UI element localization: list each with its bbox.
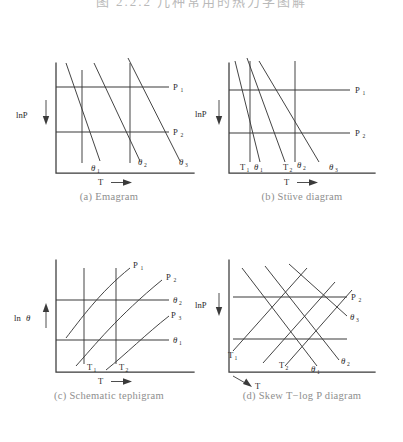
panel-c-label-P3: P3 xyxy=(171,310,182,321)
svg-text:T: T xyxy=(283,162,289,172)
svg-text:P: P xyxy=(166,272,171,282)
svg-text:T: T xyxy=(240,162,246,172)
panel-a-label-T: T xyxy=(98,177,104,187)
panel-d-label-lnP: lnP xyxy=(195,300,207,310)
svg-text:2: 2 xyxy=(303,165,306,171)
svg-text:T: T xyxy=(119,362,125,372)
panel-schematic-tephigram: lnθ T P1 P2 P3 θ2 θ1 T1 xyxy=(14,248,204,388)
panel-c-label-theta1: θ1 xyxy=(173,335,182,346)
svg-text:T: T xyxy=(98,177,104,187)
panel-d-caption: (d) Skew T−log P diagram xyxy=(207,390,397,401)
panel-b-label-T: T xyxy=(284,177,290,187)
panel-c-label-P2: P2 xyxy=(166,272,177,283)
svg-text:θ: θ xyxy=(311,364,316,374)
svg-text:θ: θ xyxy=(91,163,96,173)
svg-text:P: P xyxy=(173,82,178,92)
panel-d-x-axis-arrow xyxy=(233,376,252,387)
svg-text:T: T xyxy=(98,376,104,386)
panel-a-label-theta2: θ2 xyxy=(138,157,147,168)
svg-text:T: T xyxy=(228,350,234,360)
svg-text:θ: θ xyxy=(329,162,334,172)
panel-c-x-axis-arrow xyxy=(111,378,132,384)
svg-text:P: P xyxy=(171,310,176,320)
panel-a-adiabat-theta1 xyxy=(66,63,100,161)
thermodynamic-diagrams-figure: 图 2.2.2 几种常用的热力学图解 xyxy=(0,0,403,442)
panel-a-x-axis-arrow xyxy=(111,179,132,185)
svg-text:1: 1 xyxy=(247,167,250,173)
svg-text:lnP: lnP xyxy=(195,300,207,310)
svg-text:P: P xyxy=(351,292,356,302)
panel-emagram: lnP T P1 P2 θ1 θ2 θ3 (a) Emagram xyxy=(14,55,204,185)
panel-b-y-axis-arrow xyxy=(216,100,222,125)
svg-text:θ: θ xyxy=(173,335,178,345)
svg-text:P: P xyxy=(133,260,138,270)
panel-c-label-P1: P1 xyxy=(133,260,144,271)
panel-d-label-P2: P2 xyxy=(351,292,362,303)
panel-b-adiabat-theta1 xyxy=(235,61,260,162)
svg-text:P: P xyxy=(355,128,360,138)
clipped-figure-heading-text: 图 2.2.2 几种常用的热力学图解 xyxy=(0,0,403,10)
panel-c-isobar-P1 xyxy=(66,268,130,338)
panel-skew-t-log-p-diagram: lnP T P2 θ3 θ2 θ1 T1 T2 (d) Sk xyxy=(207,248,397,388)
panel-c-label-T1: T1 xyxy=(87,362,97,373)
svg-text:1: 1 xyxy=(97,168,100,174)
svg-text:lnP: lnP xyxy=(195,109,207,119)
panel-c-label-lntheta: lnθ xyxy=(14,313,31,323)
svg-text:θ: θ xyxy=(297,160,302,170)
panel-b-label-theta1: θ1 xyxy=(254,162,263,173)
panel-b-x-axis-arrow xyxy=(297,179,318,185)
svg-text:2: 2 xyxy=(126,367,129,373)
panel-a-label-theta1: θ1 xyxy=(91,163,100,174)
panel-d-y-axis-arrow xyxy=(216,293,222,316)
svg-text:1: 1 xyxy=(363,90,366,96)
svg-text:1: 1 xyxy=(179,340,182,346)
panel-b-label-theta3: θ3 xyxy=(329,162,338,173)
svg-text:θ: θ xyxy=(173,295,178,305)
svg-text:1: 1 xyxy=(235,355,238,361)
svg-text:θ: θ xyxy=(350,312,355,322)
svg-text:T: T xyxy=(87,362,93,372)
svg-text:2: 2 xyxy=(363,133,366,139)
panel-c-y-axis-arrow xyxy=(43,303,49,328)
svg-text:1: 1 xyxy=(141,265,144,271)
panel-c-caption: (c) Schematic tephigram xyxy=(14,390,204,401)
svg-text:θ: θ xyxy=(138,157,143,167)
panel-a-caption: (a) Emagram xyxy=(14,191,204,202)
svg-text:T: T xyxy=(279,360,285,370)
clipped-figure-heading: 图 2.2.2 几种常用的热力学图解 xyxy=(0,0,403,14)
svg-text:1: 1 xyxy=(94,367,97,373)
panel-a-y-axis-arrow xyxy=(43,100,49,125)
panel-a-label-theta3: θ3 xyxy=(179,157,188,168)
svg-text:2: 2 xyxy=(286,365,289,371)
svg-text:2: 2 xyxy=(359,297,362,303)
svg-text:3: 3 xyxy=(335,167,338,173)
panel-d-label-theta1: θ1 xyxy=(311,364,320,375)
panel-b-label-P1: P1 xyxy=(355,85,366,96)
panel-b-label-T1: T1 xyxy=(240,162,250,173)
panel-d-isotherm-T2 xyxy=(263,282,335,363)
svg-text:T: T xyxy=(284,177,290,187)
svg-text:3: 3 xyxy=(179,315,182,321)
svg-text:P: P xyxy=(173,127,178,137)
svg-text:3: 3 xyxy=(185,162,188,168)
svg-text:θ: θ xyxy=(26,313,31,323)
panel-d-label-theta2: θ2 xyxy=(341,356,350,367)
panel-b-axes xyxy=(229,63,375,173)
svg-text:1: 1 xyxy=(260,167,263,173)
panel-b-label-theta2: θ2 xyxy=(297,160,306,171)
panel-a-label-lnP: lnP xyxy=(16,110,28,120)
svg-text:ln: ln xyxy=(14,313,21,323)
svg-text:2: 2 xyxy=(347,361,350,367)
svg-text:2: 2 xyxy=(181,132,184,138)
panel-b-label-lnP: lnP xyxy=(195,109,207,119)
svg-text:θ: θ xyxy=(341,356,346,366)
svg-text:2: 2 xyxy=(174,277,177,283)
svg-text:2: 2 xyxy=(144,162,147,168)
panel-a-label-P2: P2 xyxy=(173,127,184,138)
panel-c-label-T: T xyxy=(98,376,104,386)
svg-text:θ: θ xyxy=(179,157,184,167)
svg-text:2: 2 xyxy=(290,167,293,173)
svg-text:lnP: lnP xyxy=(16,110,28,120)
panel-d-isotherm-3 xyxy=(285,290,352,366)
panel-c-label-T2: T2 xyxy=(119,362,129,373)
